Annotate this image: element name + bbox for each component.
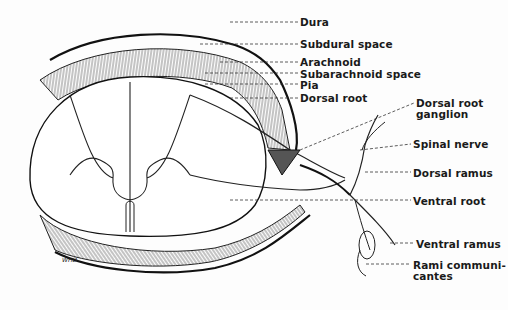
- label-text: Ventral root: [413, 195, 486, 207]
- label-dorsal-ramus: Dorsal ramus: [413, 168, 493, 179]
- label-arachnoid: Arachnoid: [300, 57, 361, 68]
- label-dorsal-root: Dorsal root: [300, 93, 367, 104]
- label-text: Dura: [300, 16, 329, 28]
- label-text: Subdural space: [300, 38, 393, 50]
- spinal-nerve: [300, 165, 350, 195]
- label-pia: Pia: [300, 80, 319, 91]
- label-subdural-space: Subdural space: [300, 39, 393, 50]
- label-spinal-nerve: Spinal nerve: [413, 139, 488, 150]
- label-dorsal-root-ganglion: Dorsal rootganglion: [416, 98, 483, 120]
- label-text: Dorsal root: [300, 92, 367, 104]
- label-rami-communicantes: Rami communi-cantes: [413, 260, 506, 282]
- dorsal-ramus: [350, 115, 378, 195]
- dorsal-root-ganglion: [268, 150, 300, 175]
- label-ventral-ramus: Ventral ramus: [416, 239, 501, 250]
- pia-outline: [30, 77, 266, 237]
- label-text: Ventral ramus: [416, 238, 501, 250]
- label-dura: Dura: [300, 17, 329, 28]
- label-text: Pia: [300, 79, 319, 91]
- label-subtext: cantes: [413, 270, 453, 282]
- label-text: Dorsal ramus: [413, 167, 493, 179]
- label-ventral-root: Ventral root: [413, 196, 486, 207]
- label-subtext: ganglion: [416, 108, 468, 120]
- label-text: Spinal nerve: [413, 138, 488, 150]
- artist-signature: WHD: [62, 256, 77, 263]
- ventral-ramus: [350, 195, 395, 245]
- spinal-cord-diagram: WHD DuraSubdural spaceArachnoidSubarachn…: [0, 0, 508, 310]
- label-text: Arachnoid: [300, 56, 361, 68]
- rami-communicantes: [359, 231, 375, 259]
